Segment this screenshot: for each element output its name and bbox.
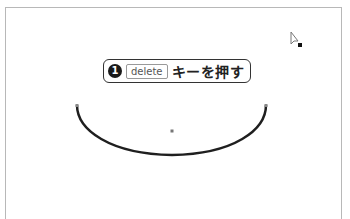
arc-endpoint-handle-right[interactable] [265,104,268,107]
instruction-callout: 1 delete キーを押す [103,59,251,83]
instruction-text: キーを押す [172,61,245,81]
arc-endpoint-handle-left[interactable] [76,104,79,107]
arrow-pointer-icon [290,31,304,51]
step-number-badge: 1 [108,64,122,78]
delete-key-label: delete [126,64,168,79]
arc-center-point[interactable] [171,130,174,133]
